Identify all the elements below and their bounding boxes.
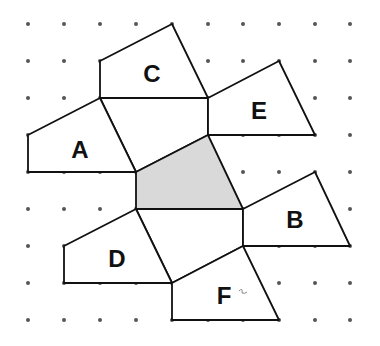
grid-dot <box>26 207 30 211</box>
grid-dot <box>348 133 352 137</box>
grid-dot <box>206 59 210 63</box>
grid-dot <box>98 207 102 211</box>
grid-dot <box>277 281 281 285</box>
grid-dot <box>241 170 245 174</box>
grid-dot <box>348 318 352 322</box>
shape-label: C <box>143 60 160 87</box>
grid-dot <box>62 318 66 322</box>
grid-dot <box>26 59 30 63</box>
grid-dot <box>26 318 30 322</box>
grid-dot <box>134 22 138 26</box>
grid-dot <box>277 22 281 26</box>
grid-dot <box>62 22 66 26</box>
grid-dot <box>98 22 102 26</box>
shape-label: B <box>286 206 303 233</box>
grid-dot <box>62 207 66 211</box>
grid-dot <box>62 59 66 63</box>
shape-label: D <box>108 245 125 272</box>
grid-dot <box>313 22 317 26</box>
shape-label: F <box>217 282 232 309</box>
grid-dot <box>134 318 138 322</box>
shape-label: E <box>251 97 267 124</box>
shape-c: C <box>100 24 208 98</box>
grid-dot <box>98 318 102 322</box>
grid-dot <box>277 170 281 174</box>
grid-dot <box>313 59 317 63</box>
grid-dot <box>241 59 245 63</box>
grid-dot <box>26 96 30 100</box>
grid-dot <box>348 170 352 174</box>
shape-e: E <box>208 61 315 135</box>
grid-dot <box>348 207 352 211</box>
grid-dot <box>348 96 352 100</box>
grid-dot <box>62 96 66 100</box>
grid-dot <box>348 22 352 26</box>
grid-dot <box>26 281 30 285</box>
shape-b: B <box>243 172 350 246</box>
grid-dot <box>26 22 30 26</box>
grid-dot <box>26 244 30 248</box>
grid-dot <box>348 281 352 285</box>
shape-label: A <box>71 136 88 163</box>
tessellation-diagram: ABCDEF <box>0 0 380 346</box>
grid-dot <box>206 22 210 26</box>
grid-dot <box>313 281 317 285</box>
grid-dot <box>313 96 317 100</box>
grid-dot <box>313 318 317 322</box>
grid-dot <box>241 22 245 26</box>
grid-dot <box>348 59 352 63</box>
